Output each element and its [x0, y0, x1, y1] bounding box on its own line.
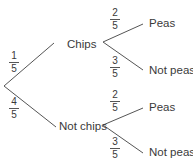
prob-den: 5 [9, 64, 19, 74]
prob-den: 5 [110, 103, 120, 113]
branch-not-chips-not-peas [103, 125, 143, 153]
label-not-chips-not-peas: Not peas [149, 146, 193, 158]
prob-den: 5 [110, 21, 120, 31]
prob-chips-not-peas: 3 5 [110, 56, 120, 79]
prob-chips-peas: 2 5 [110, 8, 120, 31]
branch-chips-peas [103, 24, 143, 42]
prob-not-chips-peas: 2 5 [110, 90, 120, 113]
prob-not-chips: 4 5 [9, 97, 19, 120]
prob-chips: 1 5 [9, 51, 19, 74]
label-chips-peas: Peas [149, 17, 175, 29]
label-chips-not-peas: Not peas [149, 64, 193, 76]
prob-den: 5 [9, 110, 19, 120]
prob-den: 5 [110, 150, 120, 160]
branch-not-chips-peas [103, 108, 143, 125]
branch-chips-not-peas [103, 42, 143, 70]
prob-num: 2 [110, 8, 120, 18]
prob-num: 2 [110, 90, 120, 100]
prob-num: 1 [9, 51, 19, 61]
prob-num: 3 [110, 137, 120, 147]
label-not-chips: Not chips [59, 120, 107, 132]
label-chips: Chips [67, 38, 96, 50]
prob-den: 5 [110, 69, 120, 79]
prob-num: 3 [110, 56, 120, 66]
prob-not-chips-not-peas: 3 5 [110, 137, 120, 160]
prob-num: 4 [9, 97, 19, 107]
label-not-chips-peas: Peas [149, 101, 175, 113]
